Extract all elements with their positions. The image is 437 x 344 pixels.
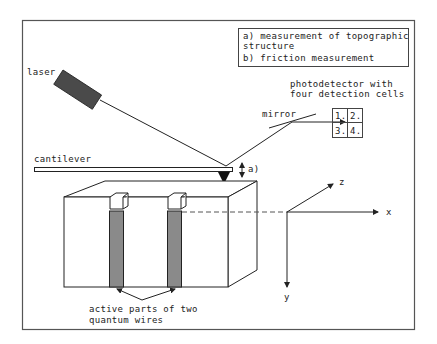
quantum-wire-left: [110, 211, 124, 287]
legend-line-a: a) measurement of topographic: [243, 31, 409, 41]
mirror-label: mirror: [262, 109, 297, 119]
detector-cell-3: 3.: [335, 126, 346, 136]
wires-label-1: active parts of two: [89, 304, 198, 314]
laser: laser: [27, 67, 102, 109]
y-axis-label: y: [284, 292, 290, 302]
laser-beam-reflected: [226, 122, 292, 166]
sample-block: [64, 181, 257, 287]
afm-diagram: a) measurement of topographic structure …: [0, 0, 437, 344]
photodetector-label-1: photodetector with: [290, 79, 393, 89]
a-marker-label: a): [248, 164, 259, 174]
wire-pointer-left: [117, 289, 142, 300]
x-axis-label: x: [386, 207, 392, 217]
photodetector-label-2: four detection cells: [290, 89, 404, 99]
wires-label-2: quantum wires: [89, 315, 163, 325]
coordinate-axes: x y z: [284, 177, 392, 302]
laser-body-icon: [54, 70, 102, 109]
legend-line-b: b) friction measurement: [243, 53, 375, 63]
wire-pointer-right: [142, 289, 175, 300]
detector-cell-1: 1.: [335, 111, 346, 121]
cantilever: [35, 168, 233, 172]
detector-cell-4: 4.: [350, 126, 361, 136]
photodetector-grid: 1. 2. 3. 4.: [333, 109, 363, 138]
z-axis: [287, 184, 333, 212]
laser-beam-incident: [100, 100, 226, 166]
quantum-wire-right: [168, 211, 182, 287]
laser-label: laser: [27, 67, 56, 77]
z-axis-label: z: [339, 177, 345, 187]
detector-cell-2: 2.: [350, 111, 361, 121]
legend-box: a) measurement of topographic structure …: [239, 29, 409, 67]
cantilever-label: cantilever: [34, 154, 91, 164]
legend-line-a-cont: structure: [243, 41, 294, 51]
